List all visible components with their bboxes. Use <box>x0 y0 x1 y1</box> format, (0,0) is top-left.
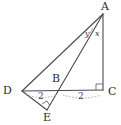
right-angle-at-e <box>42 101 50 106</box>
vertex-label-c: C <box>108 86 116 97</box>
measure-d-b: 2 <box>38 92 44 101</box>
vertex-label-d: D <box>3 85 12 96</box>
segment-a-d <box>22 14 103 91</box>
vertex-label-b: B <box>52 73 60 84</box>
segment-d-c <box>22 90 103 91</box>
angle-label-x: x <box>95 30 100 38</box>
vertex-label-e: E <box>43 112 51 123</box>
right-angle-at-c <box>96 84 103 90</box>
measure-b-c: 2 <box>78 92 84 101</box>
angle-label-y: y <box>85 30 90 38</box>
geometry-diagram: A B C D E y x 2 2 <box>0 0 121 125</box>
vertex-label-a: A <box>101 1 109 12</box>
diagram-canvas <box>0 0 121 125</box>
